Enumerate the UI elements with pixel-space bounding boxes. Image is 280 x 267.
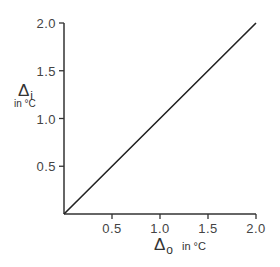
chart: 0.51.01.52.0 0.51.01.52.0 Δi in °C Δo in… — [0, 0, 280, 267]
y-axis-unit: in °C — [14, 98, 36, 109]
data-line — [64, 23, 256, 214]
y-tick-label: 2.0 — [36, 16, 56, 31]
x-axis-title: Δo — [154, 235, 173, 257]
x-tick-label: 0.5 — [102, 221, 122, 236]
y-tick-label: 0.5 — [36, 159, 56, 174]
y-tick-label: 1.5 — [36, 64, 56, 79]
x-ticks: 0.51.01.52.0 — [102, 214, 266, 236]
x-tick-label: 1.5 — [198, 221, 218, 236]
x-axis-symbol: Δ — [154, 235, 165, 254]
x-tick-label: 2.0 — [246, 221, 266, 236]
y-tick-label: 1.0 — [36, 112, 56, 127]
x-axis-subscript: o — [166, 243, 173, 257]
x-axis-unit: in °C — [182, 240, 206, 252]
x-tick-label: 1.0 — [150, 221, 170, 236]
y-ticks: 0.51.01.52.0 — [36, 16, 64, 174]
